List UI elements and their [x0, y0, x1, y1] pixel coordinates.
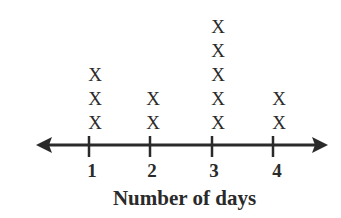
- x-mark: X: [85, 89, 105, 109]
- x-mark: X: [208, 89, 228, 109]
- tick-label-3: 3: [204, 160, 224, 182]
- line-plot: XXXXXXXXXXXX 1 2 3 4 Number of days: [0, 0, 341, 218]
- x-mark: X: [85, 65, 105, 85]
- x-mark: X: [269, 89, 289, 109]
- x-mark: X: [269, 113, 289, 133]
- tick-label-4: 4: [267, 160, 287, 182]
- x-mark: X: [208, 41, 228, 61]
- x-mark: X: [85, 113, 105, 133]
- x-mark: X: [208, 65, 228, 85]
- x-axis-label: Number of days: [0, 186, 341, 211]
- tick-label-1: 1: [82, 160, 102, 182]
- x-mark: X: [143, 89, 163, 109]
- x-mark: X: [208, 17, 228, 37]
- tick-label-2: 2: [142, 160, 162, 182]
- x-mark: X: [208, 113, 228, 133]
- x-mark: X: [143, 113, 163, 133]
